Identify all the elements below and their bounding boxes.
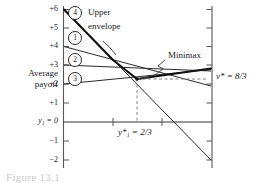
upper-envelope-label-line2: envelope <box>88 22 120 31</box>
y-tick-label-4: +4 <box>32 42 58 50</box>
y-tick-label-minus2: −2 <box>32 156 58 164</box>
series-badge-2: 2 <box>68 53 82 67</box>
series-badge-3: 3 <box>68 72 82 86</box>
figure-container: +6 +5 +4 +3 +2 +1 y₁ = 0 −1 −2 Average p… <box>0 0 255 183</box>
upper-envelope-line <box>64 10 211 80</box>
y-tick-label-minus1: −1 <box>32 137 58 145</box>
y-tick-label-1: +1 <box>32 99 58 107</box>
figure-caption: Figure 13.1 <box>6 171 60 183</box>
y-tick-label-zero: y₁ = 0 <box>14 117 58 125</box>
upper-envelope-label-line1: Upper <box>88 8 111 17</box>
y-axis-ticks <box>64 10 70 161</box>
series-badge-1: 1 <box>68 31 82 45</box>
y-axis-title-line1: Average <box>0 68 58 79</box>
minimax-point-marker <box>135 77 139 81</box>
y-tick-label-6: +6 <box>32 5 58 13</box>
series-badge-4: 4 <box>68 6 82 20</box>
y1-star-label: y*₁ = 2/3 <box>118 128 152 137</box>
y-tick-label-5: +5 <box>32 24 58 32</box>
y-axis-title-line2: payoff <box>0 79 58 90</box>
minimax-label: Minimax <box>168 51 201 60</box>
y-axis-title: Average payoff <box>0 68 58 91</box>
v-star-label: v* = 8/3 <box>216 72 247 81</box>
